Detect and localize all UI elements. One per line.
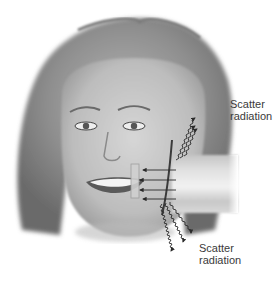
upper-label-line2: radiation [230,110,272,122]
lower-scatter-label: Scatter radiation [199,242,241,266]
film-packet [131,164,139,198]
diagram-figure: Scatter radiation Scatter radiation [0,0,280,281]
xray-beam [172,155,238,213]
face-illustration [0,0,280,281]
upper-label-line1: Scatter [230,98,272,110]
lower-label-line2: radiation [199,254,241,266]
lower-label-line1: Scatter [199,242,241,254]
upper-scatter-label: Scatter radiation [230,98,272,122]
